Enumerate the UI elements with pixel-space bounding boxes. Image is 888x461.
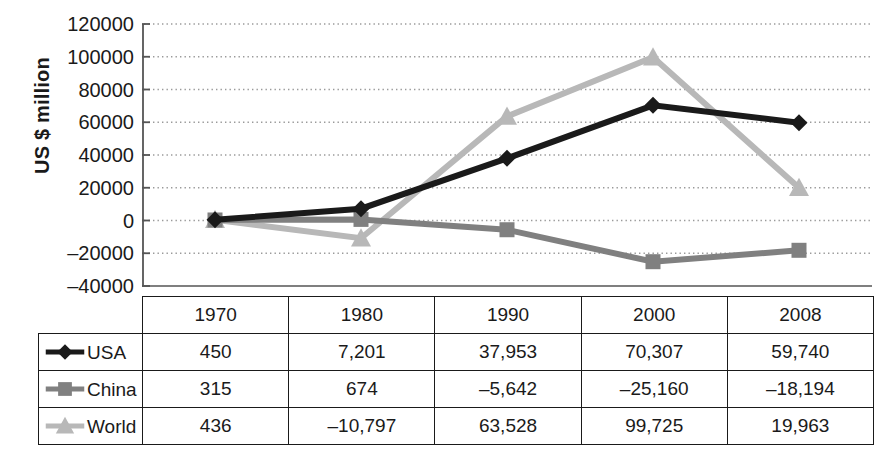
y-tick-label: 120000 xyxy=(38,14,134,34)
y-tick-label: 100000 xyxy=(38,47,134,67)
legend-entry: China xyxy=(43,378,142,400)
legend-entry: USA xyxy=(43,341,142,363)
table-cell: 436 xyxy=(143,408,289,445)
legend-row-usa: USA xyxy=(39,334,143,371)
column-header-1990: 1990 xyxy=(435,297,581,334)
legend-label: World xyxy=(87,417,136,436)
line-chart-svg xyxy=(142,10,873,292)
data-point-marker-square xyxy=(646,254,661,269)
legend-entry: World xyxy=(43,415,142,437)
legend-swatch-triangle xyxy=(43,415,87,437)
table-cell: 7,201 xyxy=(289,334,435,371)
column-header-1970: 1970 xyxy=(143,297,289,334)
data-point-marker-diamond xyxy=(499,150,516,167)
table-cell: 19,963 xyxy=(727,408,873,445)
table-cell: –25,160 xyxy=(581,371,727,408)
legend-row-china: China xyxy=(39,371,143,408)
y-tick-label: 0 xyxy=(38,211,134,231)
table-cell: –5,642 xyxy=(435,371,581,408)
y-tick-label: 80000 xyxy=(38,80,134,100)
table-cell: –10,797 xyxy=(289,408,435,445)
data-table: 1970 1980 1990 2000 2008 USA4507,20137,9… xyxy=(38,296,874,445)
legend-label: USA xyxy=(87,343,126,362)
table-cell: 70,307 xyxy=(581,334,727,371)
y-tick-label: –20000 xyxy=(38,243,134,263)
table-header-row: 1970 1980 1990 2000 2008 xyxy=(39,297,874,334)
table-cell: 450 xyxy=(143,334,289,371)
table-cell: 37,953 xyxy=(435,334,581,371)
table-row: China315674–5,642–25,160–18,194 xyxy=(39,371,874,408)
data-point-marker-square xyxy=(58,382,72,396)
column-header-2008: 2008 xyxy=(727,297,873,334)
plot-area xyxy=(142,10,873,292)
table-cell: 99,725 xyxy=(581,408,727,445)
data-point-marker-diamond xyxy=(791,114,808,131)
column-header-2000: 2000 xyxy=(581,297,727,334)
y-tick-label: 40000 xyxy=(38,145,134,165)
data-point-marker-diamond xyxy=(57,344,73,360)
legend-swatch-diamond xyxy=(43,341,87,363)
table-body: USA4507,20137,95370,30759,740China315674… xyxy=(39,334,874,445)
legend-swatch-square xyxy=(43,378,87,400)
data-point-marker-square xyxy=(792,243,807,258)
table-cell: 63,528 xyxy=(435,408,581,445)
legend-label: China xyxy=(87,380,137,399)
data-point-marker-square xyxy=(500,222,515,237)
chart-figure: US $ million 120000100000800006000040000… xyxy=(0,0,888,461)
table-cell: 674 xyxy=(289,371,435,408)
data-point-marker-diamond xyxy=(645,97,662,114)
table-cell: 315 xyxy=(143,371,289,408)
data-point-marker-triangle xyxy=(643,47,663,65)
table-cell: –18,194 xyxy=(727,371,873,408)
column-header-1980: 1980 xyxy=(289,297,435,334)
y-tick-label: 60000 xyxy=(38,112,134,132)
table-cell: 59,740 xyxy=(727,334,873,371)
table-corner-cell xyxy=(39,297,143,334)
y-tick-label: 20000 xyxy=(38,178,134,198)
y-tick-label: –40000 xyxy=(38,276,134,296)
table-row: World436–10,79763,52899,72519,963 xyxy=(39,408,874,445)
legend-row-world: World xyxy=(39,408,143,445)
y-axis-tick-labels: 120000100000800006000040000200000–20000–… xyxy=(38,0,134,300)
table-row: USA4507,20137,95370,30759,740 xyxy=(39,334,874,371)
